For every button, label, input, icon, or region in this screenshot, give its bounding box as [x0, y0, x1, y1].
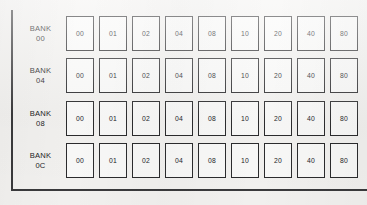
- bank-cell: 08: [198, 16, 226, 51]
- bank-cell: 00: [66, 101, 94, 136]
- bank-row: BANK0C000102040810204080: [0, 143, 367, 178]
- bank-cell: 04: [165, 16, 193, 51]
- bank-cell: 04: [165, 143, 193, 178]
- bank-row-label: BANK0C: [18, 143, 63, 178]
- bank-cell: 20: [264, 101, 292, 136]
- bank-cell: 40: [297, 101, 325, 136]
- bank-label-id: 04: [36, 76, 45, 86]
- bank-cell: 40: [297, 143, 325, 178]
- bank-label-id: 0C: [35, 161, 45, 171]
- bank-cell: 10: [231, 143, 259, 178]
- bank-label-id: 00: [36, 34, 45, 44]
- bank-cell: 01: [99, 58, 127, 93]
- bank-cell: 04: [165, 101, 193, 136]
- bank-cell: 00: [66, 58, 94, 93]
- bank-cell: 20: [264, 143, 292, 178]
- bank-cell: 02: [132, 58, 160, 93]
- bank-cell: 20: [264, 58, 292, 93]
- bank-cell: 02: [132, 101, 160, 136]
- bank-cell: 04: [165, 58, 193, 93]
- bank-cell: 40: [297, 58, 325, 93]
- bank-cell: 80: [330, 143, 358, 178]
- bank-cell: 00: [66, 16, 94, 51]
- bank-cell: 80: [330, 101, 358, 136]
- bank-label-id: 08: [36, 119, 45, 129]
- bank-cell: 02: [132, 143, 160, 178]
- bank-row-label: BANK08: [18, 101, 63, 136]
- bank-cell: 80: [330, 58, 358, 93]
- bank-row-label: BANK00: [18, 16, 63, 51]
- bank-cell: 40: [297, 16, 325, 51]
- bank-label-name: BANK: [30, 66, 52, 76]
- bank-cell: 10: [231, 16, 259, 51]
- bank-cell: 00: [66, 143, 94, 178]
- bank-cell: 01: [99, 101, 127, 136]
- bank-cell: 02: [132, 16, 160, 51]
- bank-diagram: BANK00000102040810204080BANK040001020408…: [0, 0, 367, 205]
- bank-cell: 08: [198, 101, 226, 136]
- bank-row-list: BANK00000102040810204080BANK040001020408…: [0, 0, 367, 205]
- bank-cell: 01: [99, 143, 127, 178]
- bank-cell: 10: [231, 58, 259, 93]
- bank-cell: 08: [198, 58, 226, 93]
- bank-cell: 10: [231, 101, 259, 136]
- bank-row: BANK00000102040810204080: [0, 16, 367, 51]
- bank-label-name: BANK: [30, 109, 52, 119]
- bank-cell: 80: [330, 16, 358, 51]
- bank-cell: 08: [198, 143, 226, 178]
- bank-cell: 01: [99, 16, 127, 51]
- bank-row: BANK08000102040810204080: [0, 101, 367, 136]
- bank-label-name: BANK: [30, 24, 52, 34]
- bank-row: BANK04000102040810204080: [0, 58, 367, 93]
- bank-row-label: BANK04: [18, 58, 63, 93]
- bank-label-name: BANK: [30, 151, 52, 161]
- bank-cell: 20: [264, 16, 292, 51]
